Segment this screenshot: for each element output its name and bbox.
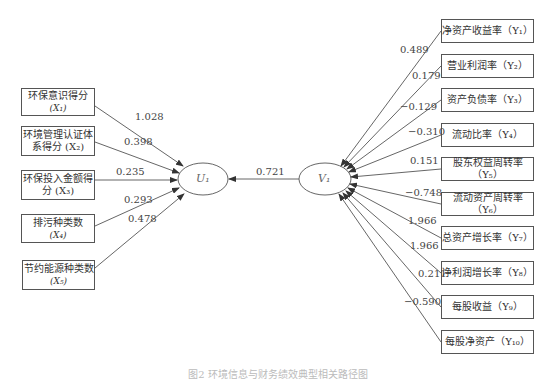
coef-y8: 1.966 [410, 240, 439, 251]
variable-box-y10: 每股净资产（Y₁₀） [441, 330, 534, 354]
variable-label: 排污种类数 [33, 217, 83, 229]
coef-y3: −0.129 [400, 101, 437, 112]
variable-box-y2: 营业利润率（Y₂） [441, 54, 534, 78]
v1-node-label: V₁ [318, 172, 330, 185]
variable-box-y7: 总资产增长率（Y₇） [441, 226, 534, 250]
variable-box-x1: 环保意识得分 (X₁) [21, 88, 95, 116]
variable-label: 每股收益（Y₉） [452, 301, 523, 313]
variable-label: 环保投入金额得 [23, 173, 93, 185]
canonical-correlation-coef: 0.721 [256, 166, 285, 177]
variable-label-line2: 系得分 (X₂) [32, 141, 84, 153]
variable-label: 总资产增长率（Y₇） [442, 232, 533, 244]
variable-box-y5: 股东权益周转率（Y₅） [441, 157, 534, 181]
coef-y1: 0.489 [400, 44, 429, 55]
variable-symbol: (X₅) [50, 275, 67, 287]
variable-box-x3: 环保投入金额得 分 (X₃) [21, 170, 95, 200]
variable-label: 流动资产周转率（Y₆） [442, 192, 533, 216]
coef-y9: 0.211 [418, 268, 447, 279]
coef-x1: 1.028 [135, 111, 164, 122]
coef-y5: 0.151 [410, 155, 439, 166]
variable-box-x2: 环境管理认证体 系得分 (X₂) [21, 126, 95, 156]
variable-box-y1: 净资产收益率（Y₁） [441, 19, 534, 43]
variable-label: 环保意识得分 [28, 90, 88, 102]
coef-y7: 1.966 [408, 215, 437, 226]
coef-y2: 0.179 [412, 70, 441, 81]
variable-label: 股东权益周转率（Y₅） [442, 157, 533, 181]
variable-box-y6: 流动资产周转率（Y₆） [441, 192, 534, 216]
variable-label: 流动比率（Y₄） [452, 129, 523, 141]
coef-y10: −0.590 [404, 296, 441, 307]
variable-label: 环境管理认证体 [23, 129, 93, 141]
coef-y6: −0.748 [405, 187, 442, 198]
coef-x4: 0.293 [124, 194, 153, 205]
variable-box-y8: 净利润增长率（Y₈） [441, 261, 534, 285]
variable-box-x5: 节约能源种类数 (X₅) [22, 260, 95, 290]
variable-label-line2: 分 (X₃) [42, 185, 74, 197]
figure-caption: 图2 环境信息与财务绩效典型相关路径图 [0, 366, 556, 381]
variable-box-y3: 资产负债率（Y₃） [441, 88, 534, 112]
variable-symbol: (X₁) [49, 102, 66, 114]
coef-x2: 0.398 [124, 136, 153, 147]
coef-x3: 0.235 [116, 166, 145, 177]
coef-x5: 0.478 [128, 213, 157, 224]
variable-box-y4: 流动比率（Y₄） [441, 123, 534, 147]
variable-label: 节约能源种类数 [24, 263, 94, 275]
variable-label: 资产负债率（Y₃） [447, 94, 528, 106]
variable-box-y9: 每股收益（Y₉） [441, 295, 534, 319]
variable-label: 净资产收益率（Y₁） [442, 25, 533, 37]
variable-box-x4: 排污种类数 (X₄) [21, 214, 95, 243]
coef-y4: −0.310 [408, 126, 445, 137]
variable-symbol: (X₄) [49, 229, 66, 241]
u1-node-label: U₁ [196, 172, 210, 185]
variable-label: 营业利润率（Y₂） [447, 60, 528, 72]
variable-label: 净利润增长率（Y₈） [442, 267, 533, 279]
variable-label: 每股净资产（Y₁₀） [445, 336, 530, 348]
